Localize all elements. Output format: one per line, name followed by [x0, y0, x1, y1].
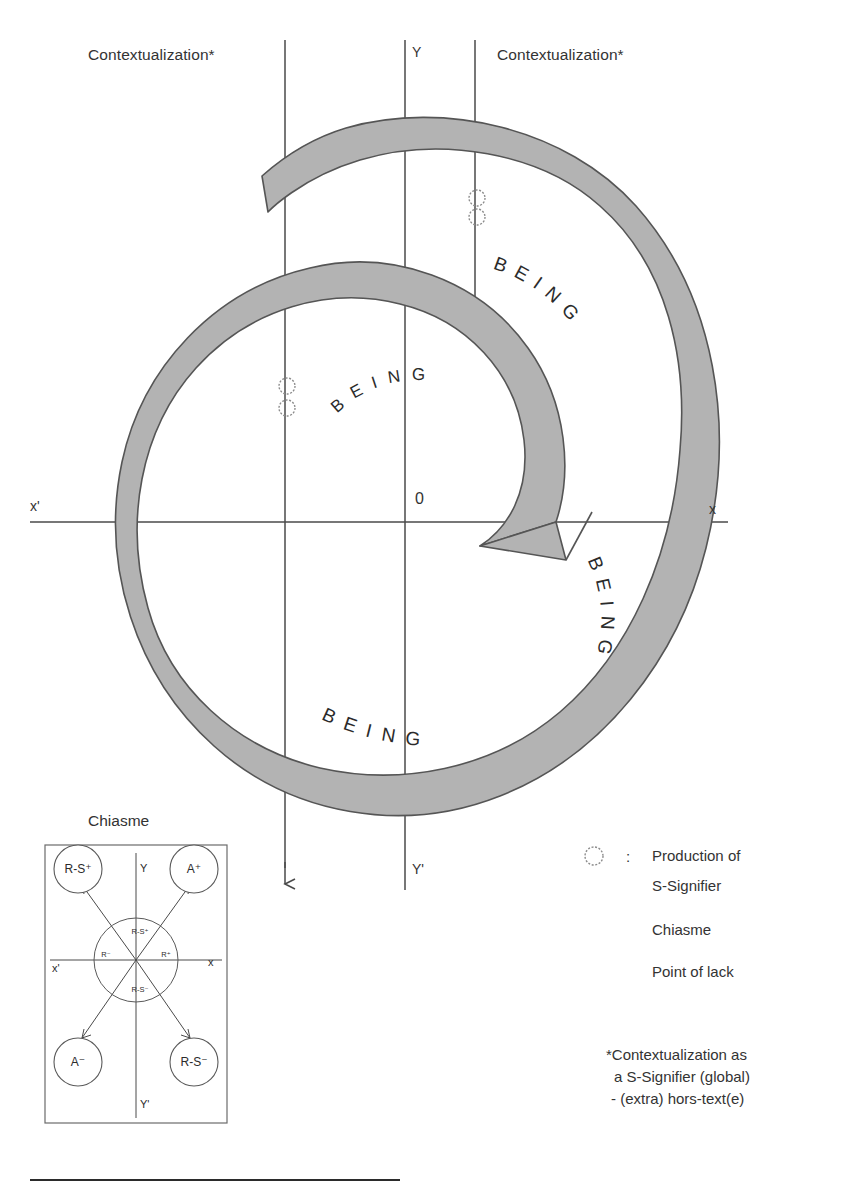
- chiasme-x-left-label: x': [52, 962, 60, 974]
- marker-icon-left-outer: [279, 378, 295, 394]
- legend-item-point-of-lack: Point of lack: [652, 961, 734, 983]
- legend-item-s-signifier: S-Signifier: [652, 875, 721, 897]
- origin-label: 0: [415, 490, 424, 508]
- being-outer-bottom: BEING: [319, 704, 432, 751]
- chiasme-y-bottom-label: Y': [140, 1098, 149, 1110]
- being-outer-upper-right-text: BEING: [491, 253, 589, 332]
- being-inner-top: BEING: [327, 365, 436, 417]
- marker-icon-top-inner: [469, 209, 485, 225]
- chiasme-node-top-left-label: R-S⁺: [65, 862, 92, 876]
- being-outer-bottom-text: BEING: [319, 704, 432, 751]
- contextualization-label-right: Contextualization*: [497, 46, 624, 64]
- x-axis-right-label: x: [709, 501, 716, 517]
- being-outer-lower-right: BEING: [584, 553, 619, 665]
- y-axis-bottom-label: Y': [412, 861, 424, 877]
- being-inner-top-text: BEING: [327, 365, 436, 417]
- chiasme-y-top-label: Y: [140, 862, 148, 874]
- chiasme-inner-top-label: R-S⁺: [132, 927, 149, 936]
- legend-item-chiasme: Chiasme: [652, 919, 711, 941]
- legend-item-production: Production of: [652, 845, 740, 867]
- chiasme-inner-left-label: R⁻: [101, 950, 110, 959]
- spiral-ribbon: [116, 117, 720, 815]
- legend-separator: :: [626, 846, 630, 868]
- footnote-line-2: a S-Signifier (global): [614, 1066, 750, 1087]
- circle-marker-icon: [585, 847, 603, 865]
- being-outer-upper-right: BEING: [491, 253, 589, 332]
- chiasme-node-bottom-left-label: A⁻: [71, 1055, 85, 1069]
- marker-icon-left-inner: [279, 400, 295, 416]
- chiasme-inner-right-label: R⁺: [161, 950, 170, 959]
- chiasme-x-right-label: x: [208, 956, 214, 968]
- chiasme-figure: R-S⁺ A⁺ A⁻ R-S⁻ R-S⁺ R⁻ R⁺ R-S⁻ Y Y' x' …: [45, 845, 227, 1123]
- chiasme-inner-bottom-label: R-S⁻: [132, 985, 149, 994]
- figure-root: BEING BEING BEING BEING: [0, 0, 850, 1188]
- contextualization-label-left: Contextualization*: [88, 46, 215, 64]
- chiasme-node-bottom-right-label: R-S⁻: [181, 1055, 208, 1069]
- spiral-band: [116, 117, 720, 815]
- footnote-line-1: *Contextualization as: [606, 1044, 747, 1065]
- chiasme-title: Chiasme: [88, 812, 149, 830]
- spiral-arrowhead-tail: [566, 512, 592, 560]
- footnote-line-3: - (extra) hors-text(e): [611, 1088, 744, 1109]
- y-axis-top-label: Y: [412, 44, 421, 60]
- diagram-canvas: BEING BEING BEING BEING: [0, 0, 850, 1188]
- x-axis-left-label: x': [30, 498, 40, 514]
- marker-icon-top-outer: [469, 190, 485, 206]
- chiasme-node-top-right-label: A⁺: [187, 862, 201, 876]
- being-outer-lower-right-text: BEING: [584, 553, 619, 665]
